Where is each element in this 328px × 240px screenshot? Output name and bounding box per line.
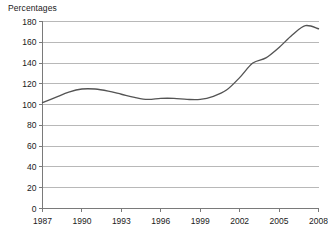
y-tick-label: 180 bbox=[22, 17, 36, 27]
y-tick-label: 60 bbox=[27, 141, 37, 151]
x-tick-label: 1993 bbox=[112, 216, 131, 226]
y-tick-label: 140 bbox=[22, 58, 36, 68]
chart-plot-area: 180160140120100806040200 198719901993199… bbox=[0, 0, 328, 240]
y-tick-label: 160 bbox=[22, 37, 36, 47]
x-tick-label: 1990 bbox=[72, 216, 91, 226]
data-series bbox=[43, 25, 319, 102]
line-chart: Percentages 180160140120100806040200 198… bbox=[0, 0, 328, 240]
y-tick-label: 100 bbox=[22, 100, 36, 110]
y-tick-label: 80 bbox=[27, 120, 37, 130]
x-tick-label: 2008 bbox=[309, 216, 328, 226]
x-tick-label: 1987 bbox=[33, 216, 52, 226]
x-tick-label: 2002 bbox=[230, 216, 249, 226]
series-line-percentages bbox=[43, 25, 319, 102]
y-tick-label: 20 bbox=[27, 183, 37, 193]
x-tick-label: 1999 bbox=[191, 216, 210, 226]
x-tick-label: 1996 bbox=[151, 216, 170, 226]
x-tick-labels: 19871990199319961999200220052008 bbox=[33, 216, 328, 226]
y-tick-label: 0 bbox=[32, 204, 37, 214]
y-tick-labels: 180160140120100806040200 bbox=[22, 17, 36, 214]
y-tick-label: 120 bbox=[22, 79, 36, 89]
x-tick-label: 2005 bbox=[270, 216, 289, 226]
y-tick-label: 40 bbox=[27, 162, 37, 172]
